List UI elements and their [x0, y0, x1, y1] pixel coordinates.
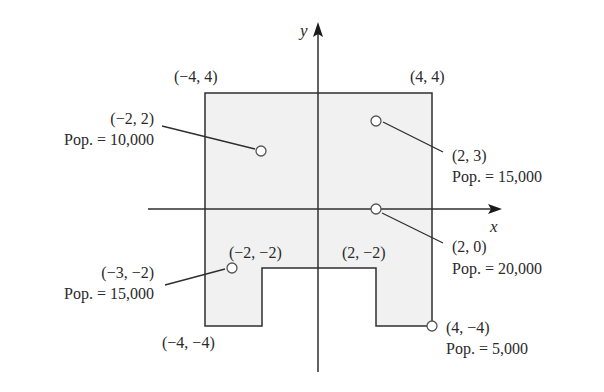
point-label-4-neg4: (4, −4) Pop. = 5,000: [446, 319, 528, 358]
svg-text:(4, −4): (4, −4): [446, 319, 490, 337]
svg-text:Pop. = 15,000: Pop. = 15,000: [64, 285, 154, 303]
svg-text:(2, 0): (2, 0): [452, 238, 487, 256]
region-diagram: x y (−4, 4) (4, 4) (−2, −2) (2, −2) (−4,…: [0, 0, 604, 392]
svg-text:(−2, 2): (−2, 2): [110, 110, 154, 128]
svg-text:Pop. = 5,000: Pop. = 5,000: [446, 340, 528, 358]
y-axis-label: y: [298, 21, 308, 40]
population-point-2-3: [371, 116, 381, 126]
population-point-neg3-neg2: [227, 263, 237, 273]
svg-text:Pop. = 15,000: Pop. = 15,000: [452, 168, 542, 186]
corner-label-notch-left: (−2, −2): [229, 244, 282, 262]
point-label-2-3: (2, 3) Pop. = 15,000: [452, 147, 542, 186]
population-point-4-neg4: [427, 321, 437, 331]
corner-label-top-left: (−4, 4): [174, 68, 218, 86]
population-point-neg2-2: [256, 146, 266, 156]
svg-text:Pop. = 10,000: Pop. = 10,000: [64, 131, 154, 149]
svg-text:Pop. = 20,000: Pop. = 20,000: [452, 260, 542, 278]
svg-text:(2, 3): (2, 3): [452, 147, 487, 165]
population-point-2-0: [371, 204, 381, 214]
corner-label-bottom-left: (−4, −4): [162, 334, 215, 352]
point-label-2-0: (2, 0) Pop. = 20,000: [452, 238, 542, 278]
corner-label-notch-right: (2, −2): [342, 244, 386, 262]
corner-label-top-right: (4, 4): [410, 68, 445, 86]
point-label-neg2-2: (−2, 2) Pop. = 10,000: [64, 110, 154, 149]
point-label-neg3-neg2: (−3, −2) Pop. = 15,000: [64, 264, 154, 303]
svg-text:(−3, −2): (−3, −2): [101, 264, 154, 282]
x-axis-label: x: [489, 217, 498, 236]
